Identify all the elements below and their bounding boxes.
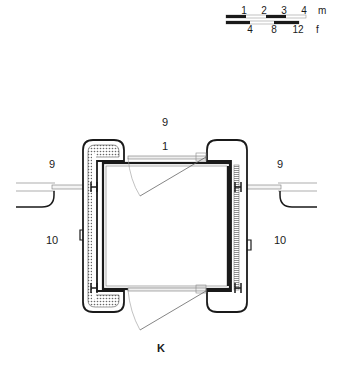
scale-tick-4m: 4 [301, 5, 307, 16]
label-room-left-lower: 10 [46, 234, 58, 246]
label-bottom-k: K [157, 342, 165, 354]
scale-bar-imperial: 4 8 12 f [226, 21, 319, 35]
scale-tick-12f: 12 [292, 24, 304, 35]
label-door-top: 1 [162, 140, 168, 152]
scale-tick-1m: 1 [241, 5, 247, 16]
scale-unit-f: f [316, 24, 319, 35]
scale-bar-metric: 1 2 3 4 m [226, 5, 326, 18]
floor-plan-diagram: 1 2 3 4 m 4 8 12 f [0, 0, 341, 365]
scale-bar: 1 2 3 4 m 4 8 12 f [226, 5, 326, 35]
left-wall-stub [16, 183, 88, 207]
scale-tick-4f: 4 [247, 24, 253, 35]
label-room-right-upper: 9 [277, 158, 283, 170]
scale-tick-3m: 3 [281, 5, 287, 16]
scale-tick-8f: 8 [271, 24, 277, 35]
right-wall-stub [245, 183, 317, 207]
scale-unit-m: m [318, 5, 326, 16]
scale-tick-2m: 2 [261, 5, 267, 16]
elevator-car [103, 163, 230, 289]
label-room-right-lower: 10 [274, 234, 286, 246]
door-bottom [128, 285, 206, 330]
label-room-left-upper: 9 [49, 158, 55, 170]
label-room-top: 9 [162, 116, 168, 128]
